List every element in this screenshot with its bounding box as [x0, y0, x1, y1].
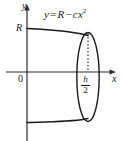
x-axis-label: x — [112, 74, 116, 84]
fraction-numerator: h — [81, 75, 90, 84]
equation-label: y=R−cx2 — [44, 9, 86, 20]
fraction-denominator: 2 — [81, 86, 90, 95]
parabola-lower-curve — [27, 119, 88, 123]
equation-minus: − — [64, 8, 72, 20]
figure-container: y x R 0 y=R−cx2 h 2 — [0, 0, 124, 141]
parabola-upper-curve — [27, 29, 88, 36]
origin-label: 0 — [18, 74, 23, 84]
half-height-fraction-label: h 2 — [81, 75, 90, 96]
y-axis-label: y — [22, 1, 26, 11]
equation-equals: = — [49, 8, 57, 20]
equation-exponent: 2 — [83, 7, 86, 14]
radius-label-R: R — [16, 23, 22, 33]
